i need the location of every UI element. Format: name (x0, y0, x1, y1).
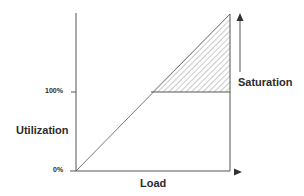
x-axis-title: Load (140, 177, 166, 189)
saturation-label: Saturation (238, 76, 292, 88)
y-axis-title: Utilization (16, 124, 69, 136)
diagram-canvas (0, 0, 304, 196)
arrow-right-icon (234, 169, 242, 176)
arrow-up-icon (237, 13, 244, 21)
tick-label-0: 0% (53, 166, 63, 173)
tick-label-100: 100% (45, 87, 63, 94)
